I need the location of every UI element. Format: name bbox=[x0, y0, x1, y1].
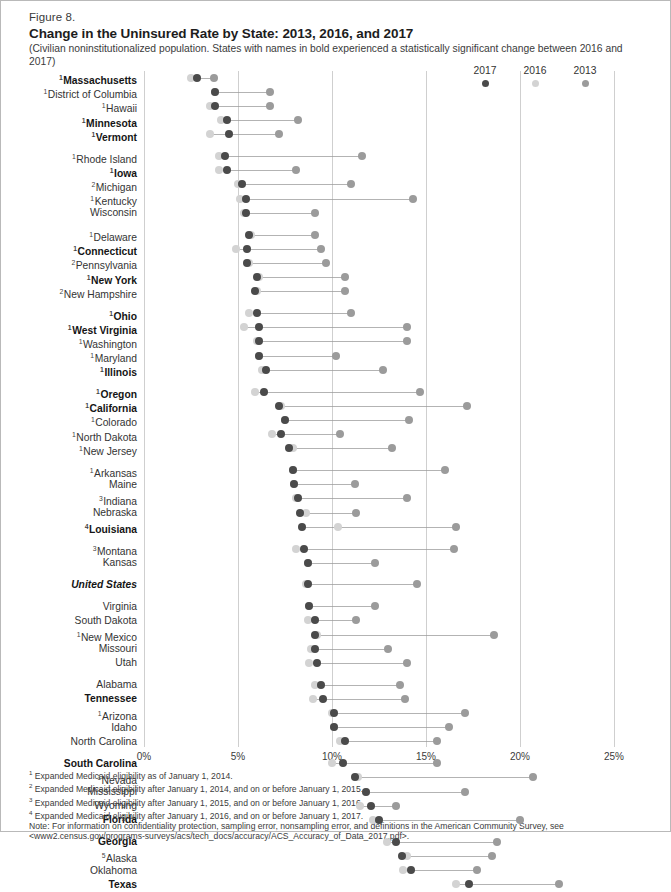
data-point-2017 bbox=[367, 802, 375, 810]
data-point-2017 bbox=[225, 130, 233, 138]
state-label-kansas: Kansas bbox=[103, 556, 137, 570]
data-point-2017 bbox=[260, 388, 268, 396]
footnote-marker: 1 bbox=[109, 310, 113, 317]
data-point-2017 bbox=[211, 88, 219, 96]
chart-row bbox=[144, 506, 614, 520]
data-point-2017 bbox=[375, 816, 383, 824]
data-point-2013 bbox=[461, 709, 469, 717]
chart-row bbox=[144, 307, 614, 321]
footnote-4: 4 Expanded Medicaid eligibility after Ja… bbox=[29, 808, 654, 821]
footnote-marker: 1 bbox=[102, 102, 106, 109]
data-point-2017 bbox=[223, 166, 231, 174]
connector-line bbox=[219, 170, 296, 171]
chart-row bbox=[144, 600, 614, 614]
chart-row bbox=[144, 735, 614, 749]
connector-line bbox=[311, 649, 388, 650]
chart-row bbox=[144, 878, 614, 892]
chart-row bbox=[144, 413, 614, 427]
state-label-new-jersey: 1New Jersey bbox=[79, 442, 137, 456]
connector-line bbox=[293, 470, 445, 471]
chart-row bbox=[144, 335, 614, 349]
connector-line bbox=[285, 420, 409, 421]
chart-row bbox=[144, 492, 614, 506]
footnote-marker: 2 bbox=[59, 288, 63, 295]
data-point-2017 bbox=[300, 545, 308, 553]
data-point-2017 bbox=[255, 337, 263, 345]
state-label-pennsylvania: 2Pennsylvania bbox=[71, 256, 137, 270]
footnote-2: 2 Expanded Medicaid eligibility after Ja… bbox=[29, 781, 654, 794]
connector-line bbox=[244, 327, 408, 328]
data-point-2013 bbox=[341, 287, 349, 295]
data-point-2017 bbox=[304, 559, 312, 567]
data-point-2017 bbox=[255, 323, 263, 331]
data-point-2017 bbox=[465, 880, 473, 888]
footnote-marker: 4 bbox=[85, 523, 89, 530]
data-point-2013 bbox=[332, 352, 340, 360]
state-label-west-virginia: 1West Virginia bbox=[68, 321, 137, 335]
chart-row bbox=[144, 656, 614, 670]
chart-row bbox=[144, 242, 614, 256]
state-label-illinois: 1Illinois bbox=[100, 363, 137, 377]
data-point-2017 bbox=[398, 852, 406, 860]
data-point-2017 bbox=[221, 152, 229, 160]
chart-row bbox=[144, 192, 614, 206]
data-point-2013 bbox=[403, 494, 411, 502]
footnote-1: 1 Expanded Medicaid eligibility as of Ja… bbox=[29, 768, 654, 781]
data-point-2013 bbox=[473, 866, 481, 874]
state-label-indiana: 3Indiana bbox=[99, 492, 137, 506]
state-label-arizona: 1Arizona bbox=[98, 707, 137, 721]
chart-row bbox=[144, 642, 614, 656]
chart-row bbox=[144, 385, 614, 399]
data-point-2013 bbox=[403, 337, 411, 345]
source-note: Note: For information on confidentiality… bbox=[29, 821, 654, 842]
chart-row bbox=[144, 614, 614, 628]
connector-line bbox=[332, 763, 437, 764]
state-label-nebraska: Nebraska bbox=[93, 506, 137, 520]
state-label-oklahoma: Oklahoma bbox=[90, 864, 137, 878]
state-label-massachusetts: 1Massachusetts bbox=[59, 71, 137, 85]
chart-row bbox=[144, 678, 614, 692]
chart-row bbox=[144, 478, 614, 492]
data-point-2013 bbox=[529, 773, 537, 781]
state-label-alabama: Alabama bbox=[96, 678, 137, 692]
data-point-2013 bbox=[266, 102, 274, 110]
data-point-2013 bbox=[317, 245, 325, 253]
state-label-virginia: Virginia bbox=[103, 600, 137, 614]
state-label-tennessee: Tennessee bbox=[85, 692, 137, 706]
data-point-2017 bbox=[296, 509, 304, 517]
chart-row bbox=[144, 150, 614, 164]
connector-line bbox=[257, 341, 407, 342]
footnote-marker: 1 bbox=[79, 445, 83, 452]
data-point-2016 bbox=[268, 430, 276, 438]
chart-row bbox=[144, 128, 614, 142]
state-label-texas: Texas bbox=[109, 878, 137, 892]
connector-line bbox=[309, 606, 375, 607]
footnote-marker: 4 bbox=[29, 809, 32, 816]
data-point-2017 bbox=[294, 494, 302, 502]
data-point-2013 bbox=[401, 695, 409, 703]
chart-row bbox=[144, 628, 614, 642]
chart-row bbox=[144, 363, 614, 377]
data-point-2013 bbox=[445, 723, 453, 731]
data-point-2013 bbox=[347, 180, 355, 188]
chart-row bbox=[144, 692, 614, 706]
chart-row bbox=[144, 228, 614, 242]
gridline-25% bbox=[614, 71, 615, 747]
connector-line bbox=[296, 549, 454, 550]
connector-line bbox=[315, 685, 400, 686]
connector-line bbox=[279, 406, 467, 407]
chart-row bbox=[144, 399, 614, 413]
data-point-2013 bbox=[336, 430, 344, 438]
data-point-2017 bbox=[223, 116, 231, 124]
state-label-missouri: Missouri bbox=[99, 642, 137, 656]
footnote-marker: 1 bbox=[72, 153, 76, 160]
state-label-new-mexico: 1New Mexico bbox=[77, 628, 137, 642]
data-point-2017 bbox=[290, 480, 298, 488]
state-label-california: 1California bbox=[85, 399, 137, 413]
chart-row bbox=[144, 71, 614, 85]
footnote-marker: 2 bbox=[92, 181, 96, 188]
data-point-2017 bbox=[317, 681, 325, 689]
footnote-marker: 1 bbox=[110, 167, 114, 174]
data-point-2016 bbox=[383, 838, 391, 846]
footnote-marker: 1 bbox=[68, 324, 72, 331]
